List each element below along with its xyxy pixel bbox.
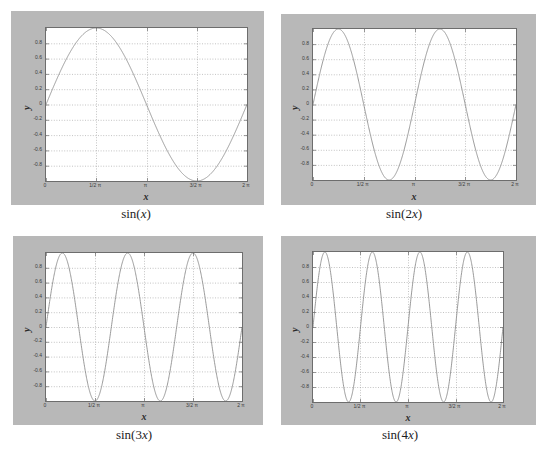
x-tick-label: 2 π xyxy=(488,404,516,409)
y-tick-label: -0.4 xyxy=(290,131,309,136)
y-tick-label: -0.2 xyxy=(23,338,42,343)
y-tick-label: 0.8 xyxy=(23,40,42,45)
x-tick-label: 1/2 π xyxy=(349,182,377,187)
caption-prefix-1: sin(2 xyxy=(386,206,412,221)
y-tick-label: -0.6 xyxy=(290,369,309,374)
curve-0-0 xyxy=(46,28,247,181)
x-tick-label: 0 xyxy=(31,183,59,188)
plot-svg-1 xyxy=(313,29,516,180)
caption-suffix-0: ) xyxy=(146,206,150,221)
y-tick-label: 0.8 xyxy=(23,264,42,269)
plot-svg-2 xyxy=(46,253,242,401)
x-tick-label: π xyxy=(400,182,428,187)
y-tick-label: -0.8 xyxy=(290,384,309,389)
x-tick-label: 0 xyxy=(298,182,326,187)
x-tick-label: 2 π xyxy=(501,182,529,187)
y-tick-label: -0.8 xyxy=(23,162,42,167)
x-tick-label: π xyxy=(393,404,421,409)
y-tick-label: -0.6 xyxy=(290,146,309,151)
caption-prefix-0: sin( xyxy=(121,206,141,221)
x-tick-label: 2 π xyxy=(227,403,255,408)
x-tick-label: 3/2 π xyxy=(450,182,478,187)
caption-suffix-2: ) xyxy=(148,427,152,442)
y-tick-label: 0.6 xyxy=(23,55,42,60)
y-tick-label: -0.2 xyxy=(23,116,42,121)
y-tick-label: 0 xyxy=(23,101,42,106)
plot-svg-3 xyxy=(313,252,503,402)
y-tick-label: 0.2 xyxy=(23,86,42,91)
y-tick-label: 0.6 xyxy=(23,279,42,284)
curve-2-0 xyxy=(46,253,242,401)
y-tick-label: -0.4 xyxy=(290,354,309,359)
y-tick-label: -0.6 xyxy=(23,147,42,152)
subplot-cell-2: y x 0.80.60.40.20-0.2-0.4-0.6-0.8 01/2 π… xyxy=(0,225,272,451)
subplot-caption-2: sin(3x) xyxy=(54,428,214,441)
y-tick-label: -0.8 xyxy=(290,161,309,166)
curve-1-0 xyxy=(313,29,516,180)
x-tick-label: π xyxy=(132,183,160,188)
y-tick-label: -0.2 xyxy=(290,339,309,344)
y-tick-label: 0 xyxy=(23,324,42,329)
x-tick-label: 3/2 π xyxy=(182,183,210,188)
y-tick-label: -0.4 xyxy=(23,353,42,358)
subplot-cell-3: y x 0.80.60.40.20-0.2-0.4-0.6-0.8 01/2 π… xyxy=(272,225,545,451)
x-tick-label: 0 xyxy=(31,403,59,408)
plot-area-1 xyxy=(312,28,517,181)
x-tick-label: 3/2 π xyxy=(178,403,206,408)
plot-area-2 xyxy=(45,252,243,402)
x-axis-label-1: x xyxy=(384,192,444,202)
caption-prefix-3: sin(4 xyxy=(382,427,408,442)
y-tick-label: 0.2 xyxy=(290,309,309,314)
y-tick-label: 0 xyxy=(290,324,309,329)
x-axis-label-2: x xyxy=(114,412,174,422)
y-tick-label: 0 xyxy=(290,101,309,106)
subplot-cell-0: y x 0.80.60.40.20-0.2-0.4-0.6-0.8 01/2 π… xyxy=(0,0,272,226)
y-tick-label: 0.2 xyxy=(290,86,309,91)
caption-prefix-2: sin(3 xyxy=(116,427,142,442)
x-tick-label: 1/2 π xyxy=(346,404,374,409)
curve-3-0 xyxy=(313,252,503,402)
y-tick-label: -0.8 xyxy=(23,383,42,388)
y-tick-label: 0.8 xyxy=(290,264,309,269)
y-tick-label: 0.6 xyxy=(290,279,309,284)
subplot-caption-1: sin(2x) xyxy=(324,207,484,220)
plot-svg-0 xyxy=(46,28,247,181)
x-tick-label: 0 xyxy=(298,404,326,409)
plot-area-3 xyxy=(312,251,504,403)
subplot-caption-3: sin(4x) xyxy=(320,428,480,441)
x-tick-label: 1/2 π xyxy=(81,183,109,188)
x-tick-label: 3/2 π xyxy=(441,404,469,409)
subplot-cell-1: y x 0.80.60.40.20-0.2-0.4-0.6-0.8 01/2 π… xyxy=(272,0,545,226)
y-tick-label: 0.2 xyxy=(23,309,42,314)
caption-suffix-1: ) xyxy=(418,206,422,221)
figure-sine-grid: y x 0.80.60.40.20-0.2-0.4-0.6-0.8 01/2 π… xyxy=(0,0,545,451)
x-axis-label-0: x xyxy=(116,192,176,202)
x-tick-label: 2 π xyxy=(232,183,260,188)
x-tick-label: 1/2 π xyxy=(80,403,108,408)
plot-area-0 xyxy=(45,27,248,182)
x-axis-label-3: x xyxy=(378,413,438,423)
y-tick-label: 0.8 xyxy=(290,41,309,46)
y-tick-label: 0.4 xyxy=(23,294,42,299)
y-tick-label: 0.4 xyxy=(23,70,42,75)
y-tick-label: 0.4 xyxy=(290,71,309,76)
y-tick-label: -0.6 xyxy=(23,368,42,373)
x-tick-label: π xyxy=(129,403,157,408)
caption-suffix-3: ) xyxy=(414,427,418,442)
y-tick-label: 0.6 xyxy=(290,56,309,61)
y-tick-label: -0.4 xyxy=(23,132,42,137)
y-tick-label: 0.4 xyxy=(290,294,309,299)
subplot-caption-0: sin(x) xyxy=(56,207,216,220)
y-tick-label: -0.2 xyxy=(290,116,309,121)
